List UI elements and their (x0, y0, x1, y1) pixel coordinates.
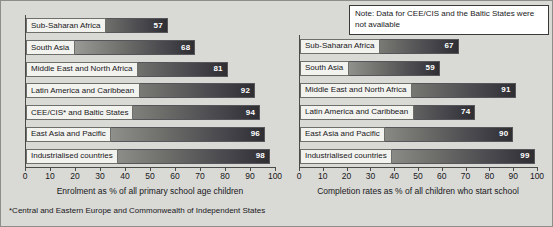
bar-value-label: 67 (444, 42, 453, 50)
bar-category-label: East Asia and Pacific (26, 127, 111, 142)
bar-category-label: Sub-Saharan Africa (300, 39, 380, 54)
bar-category-label: CEE/CIS* and Baltic States (26, 105, 133, 120)
bar-value-label: 74 (461, 108, 470, 116)
x-tick-label: 0 (23, 172, 28, 181)
x-axis-title-enrolment: Enrolment as % of all primary school age… (57, 186, 244, 196)
bar-value-label: 68 (181, 44, 190, 52)
bar-category-label: Industrialised countries (300, 149, 392, 164)
chart-panel-enrolment: 57Sub-Saharan Africa68South Asia81Middle… (1, 1, 287, 227)
x-tick-label: 30 (366, 172, 375, 181)
x-axis-title-completion: Completion rates as % of all children wh… (317, 186, 519, 196)
bar-value-label: 99 (520, 152, 529, 160)
bar-category-label: Industrialised countries (26, 149, 118, 164)
bar-row: 94CEE/CIS* and Baltic States (26, 105, 275, 120)
bar-value-label: 98 (256, 152, 265, 160)
bar-value-label: 96 (251, 130, 260, 138)
plot-area-enrolment: 57Sub-Saharan Africa68South Asia81Middle… (25, 15, 275, 167)
bar-row: 81Middle East and North Africa (26, 62, 275, 77)
x-tick-label: 20 (70, 172, 79, 181)
plot-area-completion: 67Sub-Saharan Africa59South Asia91Middle… (299, 35, 537, 167)
x-tick-label: 80 (485, 172, 494, 181)
chart-panel-completion: Note: Data for CEE/CIS and the Baltic St… (287, 1, 553, 227)
x-tick-label: 50 (145, 172, 154, 181)
bar-category-label: East Asia and Pacific (300, 127, 385, 142)
bar-value-label: 92 (241, 87, 250, 95)
bar-category-label: Latin America and Caribbean (26, 83, 140, 98)
bar-value-label: 90 (499, 130, 508, 138)
x-tick-label: 80 (220, 172, 229, 181)
x-tick-label: 90 (245, 172, 254, 181)
bar-category-label: Latin America and Caribbean (300, 105, 414, 120)
footnote: *Central and Eastern Europe and Commonwe… (9, 206, 265, 215)
x-tick-label: 30 (95, 172, 104, 181)
x-tick-label: 20 (342, 172, 351, 181)
bar-category-label: Middle East and North Africa (26, 62, 138, 77)
bar-category-label: Sub-Saharan Africa (26, 18, 106, 33)
x-tick-label: 70 (195, 172, 204, 181)
x-tick-label: 10 (318, 172, 327, 181)
bar-row: 98Industrialised countries (26, 149, 275, 164)
bar-row: 90East Asia and Pacific (300, 127, 537, 142)
x-tick-label: 60 (170, 172, 179, 181)
bar-row: 57Sub-Saharan Africa (26, 18, 275, 33)
figure-container: 57Sub-Saharan Africa68South Asia81Middle… (0, 0, 553, 227)
x-tick-label: 70 (461, 172, 470, 181)
bar-row: 59South Asia (300, 61, 537, 76)
bar-value-label: 91 (501, 86, 510, 94)
x-tick-label: 40 (120, 172, 129, 181)
bar-value-label: 81 (213, 65, 222, 73)
bar-row: 74Latin America and Caribbean (300, 105, 537, 120)
x-tick-label: 50 (413, 172, 422, 181)
bar-value-label: 57 (154, 22, 163, 30)
x-tick-label: 100 (268, 172, 282, 181)
bar-row: 67Sub-Saharan Africa (300, 39, 537, 54)
note-box: Note: Data for CEE/CIS and the Baltic St… (349, 5, 549, 35)
bar-row: 92Latin America and Caribbean (26, 83, 275, 98)
bar-rows-completion: 67Sub-Saharan Africa59South Asia91Middle… (300, 35, 537, 167)
bar-row: 99Industrialised countries (300, 149, 537, 164)
x-tick-label: 0 (297, 172, 302, 181)
bar-category-label: South Asia (300, 61, 349, 76)
bar-category-label: Middle East and North Africa (300, 83, 412, 98)
x-tick-label: 40 (389, 172, 398, 181)
bar-category-label: South Asia (26, 40, 75, 55)
bar-row: 96East Asia and Pacific (26, 127, 275, 142)
x-tick-label: 90 (508, 172, 517, 181)
bar-row: 91Middle East and North Africa (300, 83, 537, 98)
x-tick-label: 10 (45, 172, 54, 181)
bar-value-label: 94 (246, 109, 255, 117)
bar-rows-enrolment: 57Sub-Saharan Africa68South Asia81Middle… (26, 15, 275, 167)
x-tick-label: 60 (437, 172, 446, 181)
bar-row: 68South Asia (26, 40, 275, 55)
bar-value-label: 59 (426, 64, 435, 72)
x-tick-label: 100 (530, 172, 544, 181)
